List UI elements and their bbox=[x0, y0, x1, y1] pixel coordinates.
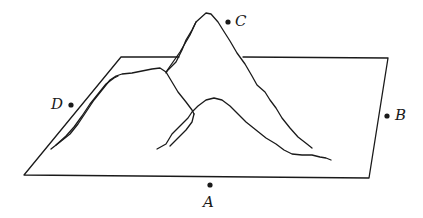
point-A-label: A bbox=[203, 195, 214, 210]
plane-outline bbox=[24, 57, 388, 178]
point-D-dot bbox=[68, 102, 73, 107]
point-D-label: D bbox=[51, 97, 63, 112]
mountain-diagram: C D B A bbox=[0, 0, 423, 218]
front-hill-outline bbox=[157, 98, 331, 160]
point-A-dot bbox=[207, 182, 212, 187]
point-B-dot bbox=[384, 113, 389, 118]
point-C-label: C bbox=[235, 14, 246, 29]
point-B-label: B bbox=[395, 108, 406, 123]
diagram-drawing bbox=[0, 0, 423, 218]
left-mountain-outline bbox=[51, 68, 194, 149]
point-C-dot bbox=[225, 19, 230, 24]
saddle-ridge bbox=[170, 114, 194, 146]
